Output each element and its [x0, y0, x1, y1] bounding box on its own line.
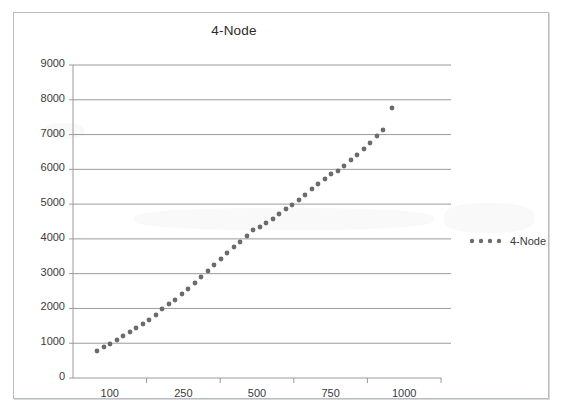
- data-point: [349, 158, 354, 163]
- plot-area: 0100020003000400050006000700080009000 10…: [14, 13, 550, 400]
- y-axis-tick-label: 1000: [21, 335, 65, 347]
- legend-dot: [497, 239, 501, 243]
- data-point: [342, 164, 347, 169]
- data-point: [284, 207, 289, 212]
- data-point: [134, 326, 139, 331]
- x-axis-tick-label: 750: [306, 387, 356, 399]
- data-point: [121, 334, 126, 339]
- data-point: [115, 338, 120, 343]
- data-point: [141, 322, 146, 327]
- data-point: [225, 251, 230, 256]
- plot-svg: [14, 13, 550, 400]
- y-axis-tick-label: 5000: [21, 196, 65, 208]
- data-point: [102, 345, 107, 350]
- y-axis-tick-label: 0: [21, 370, 65, 382]
- data-point: [368, 141, 373, 146]
- data-point: [329, 172, 334, 177]
- y-axis-tick-label: 9000: [21, 57, 65, 69]
- data-point: [147, 318, 152, 323]
- data-point: [297, 198, 302, 203]
- legend-dot: [479, 239, 483, 243]
- y-axis-tick-label: 7000: [21, 127, 65, 139]
- data-point: [160, 307, 165, 312]
- data-point: [336, 169, 341, 174]
- x-axis-tick-label: 1000: [379, 387, 429, 399]
- data-point: [362, 147, 367, 152]
- data-point: [193, 281, 198, 286]
- data-point: [232, 245, 237, 250]
- legend-dot: [470, 239, 474, 243]
- data-point: [245, 234, 250, 239]
- data-point: [310, 187, 315, 192]
- data-point: [375, 134, 380, 139]
- data-point: [355, 153, 360, 158]
- x-axis-ticks: [147, 378, 441, 383]
- data-point: [154, 313, 159, 318]
- data-point: [238, 240, 243, 245]
- data-point: [108, 342, 113, 347]
- data-point: [128, 330, 133, 335]
- data-point: [219, 257, 224, 262]
- gridlines: [69, 65, 451, 378]
- data-point: [95, 349, 100, 354]
- legend-dot: [488, 239, 492, 243]
- data-point: [277, 212, 282, 217]
- x-axis-tick-label: 250: [158, 387, 208, 399]
- x-axis-tick-label: 500: [232, 387, 282, 399]
- data-point: [186, 287, 191, 292]
- data-point: [251, 228, 256, 233]
- y-axis-tick-label: 8000: [21, 92, 65, 104]
- legend-marker-icon: [469, 236, 505, 246]
- data-point: [258, 225, 263, 230]
- legend: 4-Node: [469, 235, 546, 247]
- chart-frame: 4-Node 010002000300040005000600070008000…: [13, 12, 549, 399]
- data-point: [381, 128, 386, 133]
- y-axis-tick-label: 4000: [21, 231, 65, 243]
- data-point: [316, 182, 321, 187]
- data-point: [264, 221, 269, 226]
- y-axis-tick-label: 3000: [21, 266, 65, 278]
- y-axis-tick-label: 2000: [21, 300, 65, 312]
- data-point: [199, 275, 204, 280]
- data-point: [290, 203, 295, 208]
- data-point: [303, 193, 308, 198]
- y-axis-tick-label: 6000: [21, 161, 65, 173]
- data-point: [390, 106, 395, 111]
- data-point: [206, 269, 211, 274]
- legend-label: 4-Node: [510, 235, 546, 247]
- data-point: [212, 263, 217, 268]
- data-point: [323, 177, 328, 182]
- data-point: [271, 217, 276, 222]
- data-point: [167, 302, 172, 307]
- data-point: [180, 292, 185, 297]
- data-point: [173, 298, 178, 303]
- x-axis-tick-label: 100: [85, 387, 135, 399]
- data-series-4-node: [95, 106, 395, 354]
